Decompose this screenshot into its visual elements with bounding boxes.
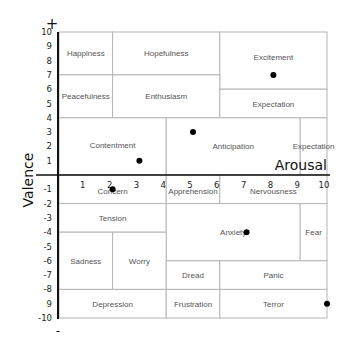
region-label-enthusiasm: Enthusiasm [145, 92, 187, 101]
region-label-anxiety: Anxiety [220, 228, 246, 237]
y-tick-label: 10 [41, 27, 52, 37]
y-tick-label: 9 [47, 299, 52, 309]
data-point [110, 186, 116, 192]
region-label-dread: Dread [182, 271, 204, 280]
region-label-peacefulness: Peacefulness [62, 92, 110, 101]
y-tick-label: -2 [44, 199, 52, 209]
region-label-excitement: Excitement [254, 53, 294, 62]
y-tick-label: 7 [47, 70, 52, 80]
data-point [136, 158, 142, 164]
y-tick-label: 6 [47, 84, 52, 94]
y-tick-label: 4 [47, 113, 52, 123]
region-label-expectation: Expectation [252, 100, 294, 109]
region-label-terror: Terror [263, 300, 284, 309]
region-label-fear: Fear [305, 228, 322, 237]
x-tick-label: 3 [134, 180, 139, 190]
y-tick-label: -7 [44, 270, 52, 280]
region-label-sadness: Sadness [70, 257, 101, 266]
x-axis-title: Arousal [275, 157, 327, 173]
x-tick-label: 6 [214, 180, 219, 190]
region-label-expectation: Expectation [293, 142, 335, 151]
y-axis-minus-marker: - [56, 324, 60, 338]
x-tick-label: 4 [160, 180, 165, 190]
y-tick-label: -6 [44, 256, 52, 266]
y-tick-label: 3 [47, 127, 52, 137]
data-point [244, 229, 250, 235]
x-tick-label: 1 [80, 180, 85, 190]
region-label-nervousness: Nervousness [250, 187, 297, 196]
x-tick-label: 8 [268, 180, 273, 190]
region-label-frustration: Frustration [174, 300, 212, 309]
region-label-anticipation: Anticipation [213, 142, 254, 151]
y-tick-label: 8 [47, 56, 52, 66]
y-tick-label: -3 [44, 213, 52, 223]
x-tick-label: 5 [187, 180, 192, 190]
data-point [270, 72, 276, 78]
y-tick-label: -8 [44, 284, 52, 294]
x-tick-label: 7 [241, 180, 246, 190]
y-tick-label: 5 [47, 99, 52, 109]
y-tick-label: 1 [47, 156, 52, 166]
y-tick-label: -4 [44, 227, 52, 237]
data-point [190, 129, 196, 135]
y-tick-label: -10 [38, 313, 52, 323]
region-label-hopefulness: Hopefulness [144, 49, 188, 58]
region-label-contentment: Contentment [90, 141, 137, 150]
emotion-valence-arousal-chart: HappinessHopefulnessExcitementPeacefulne… [0, 0, 348, 345]
region-label-tension: Tension [99, 214, 127, 223]
y-tick-label: -1 [44, 184, 52, 194]
region-label-panic: Panic [263, 271, 283, 280]
y-axis-title: Valence [20, 153, 36, 208]
x-tick-label: 9 [294, 180, 299, 190]
y-tick-label: 2 [47, 141, 52, 151]
region-label-worry: Worry [129, 257, 150, 266]
region-label-happiness: Happiness [67, 49, 105, 58]
y-tick-label: -5 [44, 242, 52, 252]
region-label-depression: Depression [92, 300, 132, 309]
x-tick-label: 10 [319, 180, 330, 190]
region-label-apprehension: Apprehension [168, 187, 217, 196]
y-tick-label: 9 [47, 41, 52, 51]
data-point [324, 301, 330, 307]
